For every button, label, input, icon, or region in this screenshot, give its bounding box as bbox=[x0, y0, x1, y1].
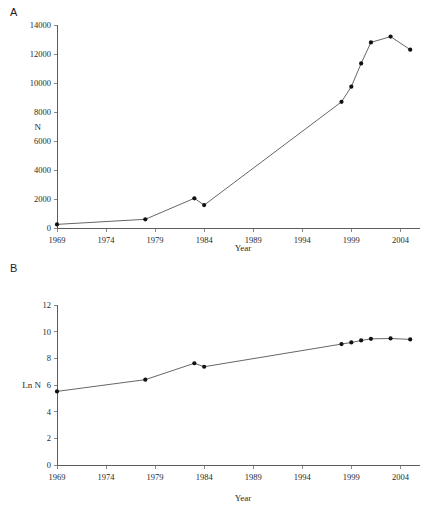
svg-text:1984: 1984 bbox=[196, 472, 214, 482]
svg-text:Year: Year bbox=[235, 243, 252, 253]
svg-text:1974: 1974 bbox=[98, 235, 116, 245]
panel-b-plot: 0246810121969197419791984198919941999200… bbox=[0, 258, 429, 516]
svg-text:6000: 6000 bbox=[34, 136, 51, 146]
svg-text:1994: 1994 bbox=[294, 235, 312, 245]
svg-text:Year: Year bbox=[235, 493, 252, 503]
svg-text:14000: 14000 bbox=[30, 20, 51, 30]
svg-text:12000: 12000 bbox=[30, 49, 51, 59]
panel-b: B 02468101219691974197919841989199419992… bbox=[0, 258, 429, 516]
svg-text:1999: 1999 bbox=[343, 472, 360, 482]
svg-text:1969: 1969 bbox=[49, 472, 66, 482]
svg-text:10000: 10000 bbox=[30, 78, 51, 88]
svg-text:4000: 4000 bbox=[34, 165, 51, 175]
svg-text:0: 0 bbox=[47, 460, 51, 470]
svg-text:1974: 1974 bbox=[98, 472, 116, 482]
svg-text:Ln N: Ln N bbox=[22, 380, 41, 390]
svg-text:1979: 1979 bbox=[147, 472, 164, 482]
svg-text:2000: 2000 bbox=[34, 194, 51, 204]
panel-a-plot: 0200040006000800010000120001400019691974… bbox=[0, 0, 429, 258]
svg-text:1979: 1979 bbox=[147, 235, 164, 245]
svg-text:8000: 8000 bbox=[34, 107, 51, 117]
svg-text:1999: 1999 bbox=[343, 235, 360, 245]
svg-text:6: 6 bbox=[47, 380, 51, 390]
svg-text:1989: 1989 bbox=[245, 472, 262, 482]
svg-text:2004: 2004 bbox=[392, 472, 410, 482]
svg-text:10: 10 bbox=[43, 327, 52, 337]
svg-text:2: 2 bbox=[47, 433, 51, 443]
panel-a: A 02000400060008000100001200014000196919… bbox=[0, 0, 429, 258]
svg-text:2004: 2004 bbox=[392, 235, 410, 245]
svg-text:4: 4 bbox=[47, 407, 52, 417]
svg-text:1969: 1969 bbox=[49, 235, 66, 245]
svg-text:1984: 1984 bbox=[196, 235, 214, 245]
svg-text:12: 12 bbox=[43, 300, 52, 310]
figure-container: A 02000400060008000100001200014000196919… bbox=[0, 0, 429, 516]
svg-text:0: 0 bbox=[47, 223, 51, 233]
svg-text:1994: 1994 bbox=[294, 472, 312, 482]
svg-text:N: N bbox=[35, 122, 42, 132]
svg-text:8: 8 bbox=[47, 353, 51, 363]
